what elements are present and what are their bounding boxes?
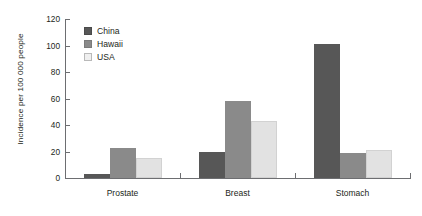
legend-swatch-china bbox=[84, 27, 92, 35]
legend-item-hawaii: Hawaii bbox=[84, 38, 123, 50]
bar-china-prostate bbox=[84, 174, 110, 178]
y-axis-tick-label: 100 bbox=[20, 42, 60, 50]
legend-label: Hawaii bbox=[97, 40, 123, 49]
y-axis-tick-label: 0 bbox=[20, 174, 60, 182]
bar-hawaii-prostate bbox=[110, 148, 136, 178]
legend-swatch-hawaii bbox=[84, 40, 92, 48]
y-axis-tick-label: 80 bbox=[20, 68, 60, 76]
grouped-bar-chart: Incidence per 100 000 people 02040608010… bbox=[0, 0, 422, 216]
x-axis-line bbox=[65, 178, 411, 179]
legend-label: USA bbox=[97, 53, 115, 62]
legend-item-usa: USA bbox=[84, 51, 123, 63]
chart-legend: ChinaHawaiiUSA bbox=[84, 25, 123, 64]
bar-hawaii-stomach bbox=[340, 153, 366, 178]
bar-usa-stomach bbox=[366, 150, 392, 178]
bar-usa-breast bbox=[251, 121, 277, 178]
legend-swatch-usa bbox=[84, 53, 92, 61]
legend-label: China bbox=[97, 27, 119, 36]
y-axis-tick-label: 120 bbox=[20, 15, 60, 23]
y-axis-tick-label: 40 bbox=[20, 121, 60, 129]
legend-item-china: China bbox=[84, 25, 123, 37]
bar-hawaii-breast bbox=[225, 101, 251, 178]
x-axis-label-stomach: Stomach bbox=[295, 188, 410, 198]
x-axis-label-prostate: Prostate bbox=[65, 188, 180, 198]
bar-china-breast bbox=[199, 152, 225, 179]
x-axis-tick bbox=[410, 173, 411, 178]
y-axis-tick bbox=[66, 178, 70, 179]
bar-china-stomach bbox=[314, 44, 340, 178]
bar-usa-prostate bbox=[136, 158, 162, 178]
y-axis-tick-label: 60 bbox=[20, 95, 60, 103]
x-axis-label-breast: Breast bbox=[180, 188, 295, 198]
y-axis-tick-label: 20 bbox=[20, 148, 60, 156]
